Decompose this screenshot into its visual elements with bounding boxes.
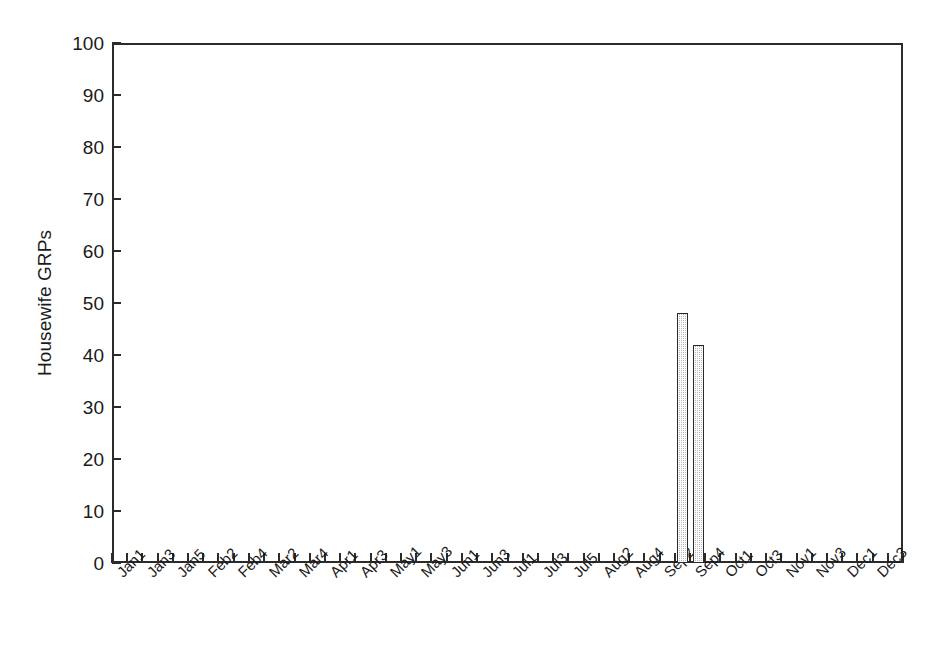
y-tick-mark [112, 458, 121, 460]
y-tick-label-text: 50 [83, 294, 104, 313]
y-tick-mark [112, 42, 121, 44]
y-tick-mark [112, 510, 121, 512]
y-tick-label-text: 0 [93, 554, 104, 573]
y-tick-label: 10 [54, 501, 104, 521]
y-tick-label: 90 [54, 85, 104, 105]
y-tick-mark [112, 146, 121, 148]
y-tick-mark [112, 94, 121, 96]
y-tick-label-text: 40 [83, 346, 104, 365]
y-tick-label: 70 [54, 189, 104, 209]
y-tick-label-text: 10 [83, 502, 104, 521]
y-tick-mark [112, 198, 121, 200]
y-tick-mark [112, 406, 121, 408]
y-tick-label: 100 [54, 33, 104, 53]
y-tick-label-text: 60 [83, 242, 104, 261]
y-tick-label: 40 [54, 345, 104, 365]
plot-area [112, 43, 903, 563]
y-tick-label-text: 80 [83, 138, 104, 157]
y-tick-label: 0 [54, 553, 104, 573]
y-tick-label-text: 20 [83, 450, 104, 469]
bar [693, 345, 704, 563]
y-tick-label: 60 [54, 241, 104, 261]
y-tick-label: 20 [54, 449, 104, 469]
y-tick-label: 30 [54, 397, 104, 417]
y-tick-mark [112, 250, 121, 252]
y-tick-label-text: 100 [72, 34, 104, 53]
x-tick-mark [111, 553, 113, 563]
y-tick-mark [112, 354, 121, 356]
bar [677, 313, 688, 563]
chart-container: Housewife GRPs 0102030405060708090100 Ja… [0, 0, 944, 659]
y-tick-label-text: 30 [83, 398, 104, 417]
y-tick-label-text: 90 [83, 86, 104, 105]
y-tick-mark [112, 302, 121, 304]
y-tick-label-text: 70 [83, 190, 104, 209]
y-tick-label: 80 [54, 137, 104, 157]
y-tick-label: 50 [54, 293, 104, 313]
